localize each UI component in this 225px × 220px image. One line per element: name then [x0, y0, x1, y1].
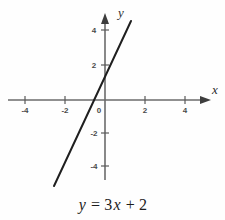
- y-tick-label-neg2: -2: [90, 129, 97, 138]
- x-tick-label-pos2: 2: [143, 106, 147, 115]
- x-tick-label-pos4: 4: [183, 106, 187, 115]
- caption-plus-sign: +: [122, 196, 139, 214]
- caption-equals-sign: =: [87, 196, 104, 214]
- y-tick-label-pos2: 2: [92, 61, 96, 70]
- caption-lhs-variable: y: [78, 196, 87, 214]
- y-tick-label-neg4: -4: [90, 162, 97, 171]
- caption-slope-coefficient: 3: [104, 196, 112, 214]
- x-tick-label-neg4: -4: [21, 106, 28, 115]
- y-tick-label-pos4: 4: [92, 26, 96, 35]
- x-axis-arrow-icon: [200, 96, 211, 104]
- equation-caption: y = 3 x + 2: [0, 190, 225, 220]
- x-tick-label-neg2: -2: [61, 106, 68, 115]
- y-axis-arrow-icon: [101, 13, 109, 24]
- caption-x-variable: x: [113, 196, 122, 214]
- x-axis-label: x: [212, 82, 218, 98]
- coordinate-plane-plot: [0, 0, 225, 190]
- caption-intercept-constant: 2: [139, 196, 147, 214]
- figure-container: -4 -2 0 2 4 4 2 -2 -4 y x y = 3 x + 2: [0, 0, 225, 220]
- x-tick-label-origin: 0: [97, 106, 101, 115]
- y-axis-label: y: [118, 5, 124, 21]
